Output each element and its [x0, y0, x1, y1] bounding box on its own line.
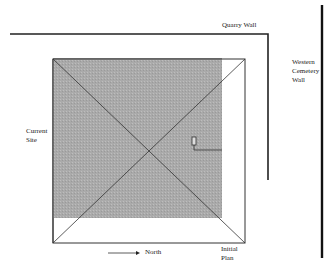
current-site-label-line2: Site: [26, 136, 37, 145]
north-arrow-head: [136, 251, 140, 255]
western-cemetery-wall-label-line1: Western: [292, 58, 315, 67]
site-plan-diagram: [0, 0, 336, 271]
small-feature-marker: [192, 137, 196, 145]
western-cemetery-wall-label-line3: Wall: [292, 76, 305, 85]
initial-plan-label-line1: Initial: [221, 245, 238, 254]
quarry-wall-label: Quarry Wall: [222, 21, 257, 30]
north-label: North: [145, 248, 161, 257]
current-site-label-line1: Current: [26, 127, 47, 136]
western-cemetery-wall-label-line2: Cemetery: [292, 67, 319, 76]
initial-plan-label-line2: Plan: [221, 254, 233, 263]
